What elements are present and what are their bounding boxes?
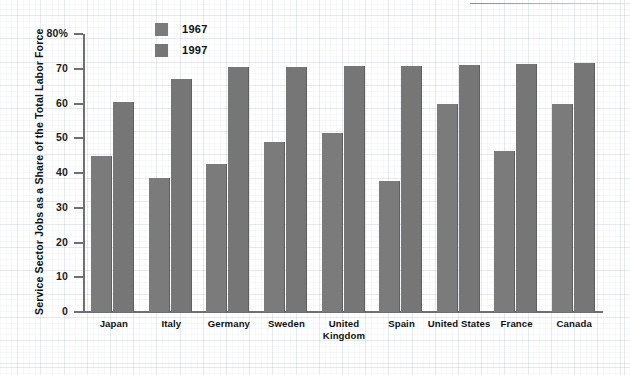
bar-germany-1997[interactable] xyxy=(228,67,249,312)
y-tick-label-40: 40 xyxy=(22,166,68,178)
y-tick-label-80: 80% xyxy=(22,27,68,39)
y-tick-0 xyxy=(74,311,83,313)
y-axis-line xyxy=(83,34,85,313)
bar-italy-1967[interactable] xyxy=(149,178,170,312)
bar-sweden-1997[interactable] xyxy=(286,67,307,312)
bar-united-kingdom-1997[interactable] xyxy=(344,66,365,312)
legend-item-1997[interactable]: 1997 xyxy=(155,41,208,59)
legend-swatch-1967 xyxy=(155,23,168,36)
bar-japan-1997[interactable] xyxy=(113,102,134,312)
bar-spain-1967[interactable] xyxy=(379,181,400,312)
bar-united-kingdom-1967[interactable] xyxy=(322,133,343,312)
bar-germany-1967[interactable] xyxy=(206,164,227,312)
bar-france-1997[interactable] xyxy=(516,64,537,312)
y-tick-30 xyxy=(74,207,83,209)
y-tick-50 xyxy=(74,137,83,139)
y-tick-label-50: 50 xyxy=(22,131,68,143)
legend-label-1997: 1997 xyxy=(182,44,208,56)
legend-label-1967: 1967 xyxy=(182,23,208,35)
legend-swatch-1997 xyxy=(155,44,168,57)
bar-japan-1967[interactable] xyxy=(91,156,112,312)
y-tick-40 xyxy=(74,172,83,174)
y-tick-70 xyxy=(74,68,83,70)
bar-canada-1967[interactable] xyxy=(552,104,573,313)
chart-legend: 1967 1997 xyxy=(155,20,208,62)
y-tick-label-60: 60 xyxy=(22,97,68,109)
bar-chart: Service Sector Jobs as a Share of the To… xyxy=(0,0,630,375)
bar-canada-1997[interactable] xyxy=(574,63,595,312)
y-tick-label-10: 10 xyxy=(22,270,68,282)
bar-united-states-1967[interactable] xyxy=(437,104,458,313)
category-label-canada: Canada xyxy=(539,318,609,330)
y-tick-label-70: 70 xyxy=(22,62,68,74)
bar-france-1967[interactable] xyxy=(494,151,515,312)
bar-spain-1997[interactable] xyxy=(401,66,422,312)
y-tick-20 xyxy=(74,242,83,244)
y-tick-80 xyxy=(74,33,83,35)
bar-united-states-1997[interactable] xyxy=(459,65,480,312)
bar-italy-1997[interactable] xyxy=(171,79,192,312)
bar-sweden-1967[interactable] xyxy=(264,142,285,312)
y-tick-label-20: 20 xyxy=(22,236,68,248)
y-tick-label-0: 0 xyxy=(22,305,68,317)
y-tick-60 xyxy=(74,103,83,105)
y-tick-label-30: 30 xyxy=(22,201,68,213)
y-tick-10 xyxy=(74,276,83,278)
legend-item-1967[interactable]: 1967 xyxy=(155,20,208,38)
